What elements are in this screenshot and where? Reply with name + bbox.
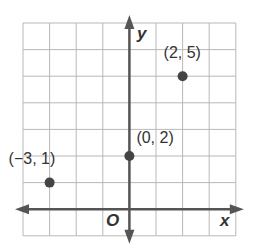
point-label: (−3, 1): [9, 150, 56, 167]
data-point: [178, 71, 188, 81]
point-label: (2, 5): [164, 44, 201, 61]
data-point: [45, 178, 55, 188]
data-point: [124, 151, 134, 161]
y-axis-label: y: [136, 24, 148, 43]
origin-label: O: [106, 211, 119, 230]
coordinate-plane: (−3, 1)(0, 2)(2, 5) x y O: [0, 0, 253, 248]
x-axis-label: x: [219, 211, 231, 230]
data-points: (−3, 1)(0, 2)(2, 5): [9, 44, 201, 187]
point-label: (0, 2): [136, 129, 173, 146]
